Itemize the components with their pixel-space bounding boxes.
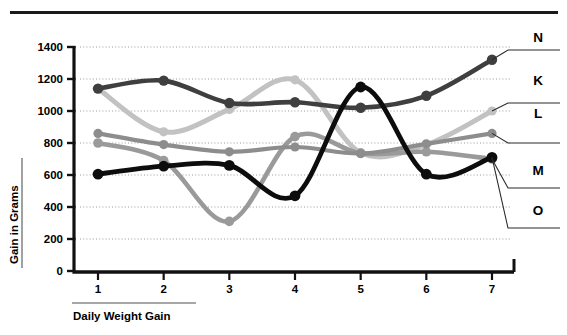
legend-label-O: O [533,203,544,218]
legend-label-N: N [533,30,543,45]
data-point [422,139,431,148]
leader-line-O [492,157,560,228]
data-point [93,138,103,148]
series-group [93,55,498,227]
y-axis-title-text: Gain in Grams [8,185,20,264]
leader-line-K [492,133,560,143]
data-point [290,190,301,201]
leader-line-M [492,159,560,188]
data-point [421,91,431,101]
y-tick-label: 400 [44,201,63,213]
data-point [93,83,103,93]
x-tick-label: 1 [95,283,102,295]
y-axis-title: Gain in Grams [8,158,22,268]
data-point [225,147,234,156]
y-tick-label: 800 [44,137,63,149]
y-tick-label: 200 [44,233,63,245]
y-tick-label: 1400 [37,41,63,53]
data-point [93,169,104,180]
chart-page: 0200400600800100012001400 1234567 NKLMO … [0,0,567,335]
data-point [158,75,168,85]
data-point [93,129,102,138]
data-point [224,98,234,108]
data-point [421,169,432,180]
data-point [290,75,299,84]
line-chart: 0200400600800100012001400 1234567 NKLMO … [0,0,567,335]
data-point [290,142,299,151]
x-axis-title: Daily Weight Gain [72,303,196,322]
data-point [290,97,300,107]
x-tick-label: 5 [357,283,364,295]
y-tick-label: 1000 [37,105,63,117]
y-tick-label: 1200 [37,73,63,85]
x-tick-label-group: 1234567 [95,283,495,295]
x-tick-label: 7 [489,283,495,295]
leader-line-L [492,103,560,111]
data-point [355,103,365,113]
data-point [224,160,235,171]
leader-line-group [492,50,560,228]
x-tick-label: 4 [292,283,299,295]
data-point [290,132,300,142]
data-point [356,149,365,158]
x-axis-title-text: Daily Weight Gain [73,310,171,322]
data-point [422,147,432,157]
y-tick-label: 600 [44,169,63,181]
legend-group: NKLMO [532,30,543,218]
data-point [225,217,235,227]
y-tick-label: 0 [57,265,63,277]
y-tick-label-group: 0200400600800100012001400 [37,41,63,277]
data-point [159,140,168,149]
legend-label-K: K [533,73,543,88]
x-tick-label: 3 [226,283,232,295]
x-tick-label: 6 [423,283,429,295]
legend-label-L: L [534,106,542,121]
data-point [158,161,169,172]
data-point [355,82,366,93]
data-point [159,127,168,136]
x-tick-label: 2 [160,283,166,295]
legend-label-M: M [532,163,543,178]
leader-line-N [492,50,560,60]
